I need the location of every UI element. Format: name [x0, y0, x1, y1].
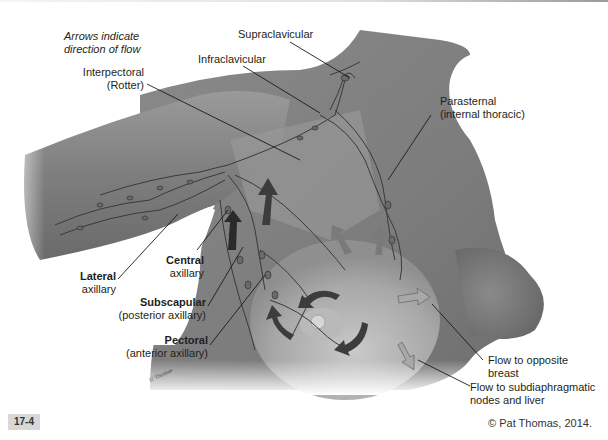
label-pectoral-normal: (anterior axillary) [100, 347, 208, 360]
label-opposite-breast-line1: Flow to opposite [488, 354, 568, 367]
label-parasternal-line2: (internal thoracic) [440, 108, 525, 121]
label-supraclavicular: Supraclavicular [238, 28, 313, 41]
label-interpectoral-line1: Interpectoral [82, 66, 144, 79]
label-central-bold: Central [150, 254, 204, 267]
label-lateral-bold: Lateral [60, 270, 116, 283]
label-central-normal: axillary [150, 267, 204, 280]
label-central-axillary: Central axillary [150, 254, 204, 280]
flow-note: Arrows indicate direction of flow [64, 30, 140, 56]
label-subdiaphragmatic-line1: Flow to subdiaphragmatic [470, 381, 595, 394]
flow-note-line2: direction of flow [64, 43, 140, 56]
label-opposite-breast-line2: breast [488, 367, 568, 380]
nipple [311, 315, 325, 329]
flow-note-line1: Arrows indicate [64, 30, 140, 43]
label-opposite-breast: Flow to opposite breast [488, 354, 568, 380]
label-lateral-normal: axillary [60, 283, 116, 296]
label-interpectoral-line2: (Rotter) [82, 79, 144, 92]
label-interpectoral: Interpectoral (Rotter) [82, 66, 144, 92]
label-pectoral: Pectoral (anterior axillary) [100, 334, 208, 360]
label-parasternal-line1: Parasternal [440, 95, 525, 108]
label-subdiaphragmatic-line2: nodes and liver [470, 394, 595, 407]
label-infraclavicular: Infraclavicular [198, 53, 266, 66]
label-subscapular-bold: Subscapular [100, 296, 206, 309]
label-pectoral-bold: Pectoral [100, 334, 208, 347]
label-subscapular: Subscapular (posterior axillary) [100, 296, 206, 322]
copyright: © Pat Thomas, 2014. [488, 417, 592, 429]
label-lateral-axillary: Lateral axillary [60, 270, 116, 296]
label-subscapular-normal: (posterior axillary) [100, 309, 206, 322]
label-subdiaphragmatic: Flow to subdiaphragmatic nodes and liver [470, 381, 595, 407]
figure-number: 17-4 [8, 414, 40, 430]
right-breast-shape [455, 248, 544, 339]
label-parasternal: Parasternal (internal thoracic) [440, 95, 525, 121]
